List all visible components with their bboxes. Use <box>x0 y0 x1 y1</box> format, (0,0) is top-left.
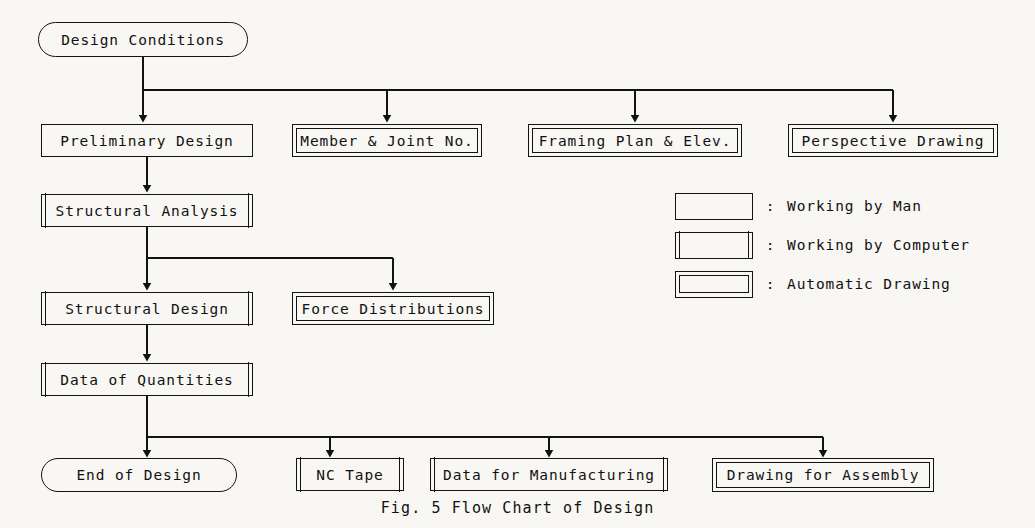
legend-swatch-working-by-man <box>675 193 753 220</box>
node-structural-analysis[interactable]: Structural Analysis <box>41 194 253 227</box>
legend-label-automatic-drawing: Automatic Drawing <box>787 276 951 292</box>
legend-swatch-working-by-computer <box>675 232 753 259</box>
legend-label-working-by-computer: Working by Computer <box>787 237 970 253</box>
node-label: Data for Manufacturing <box>437 467 661 483</box>
node-label: Preliminary Design <box>54 133 239 149</box>
node-label: Member & Joint No. <box>294 133 479 149</box>
legend: : Working by Man : Working by Computer :… <box>675 191 1025 299</box>
legend-colon: : <box>753 198 787 214</box>
node-perspective-drawing[interactable]: Perspective Drawing <box>788 124 998 157</box>
flowchart-figure: Design Conditions Preliminary Design Mem… <box>0 0 1035 528</box>
legend-row: : Automatic Drawing <box>675 269 951 299</box>
figure-caption: Fig. 5 Flow Chart of Design <box>0 499 1035 517</box>
legend-label-working-by-man: Working by Man <box>787 198 922 214</box>
node-design-conditions[interactable]: Design Conditions <box>38 22 248 57</box>
node-label: Drawing for Assembly <box>721 467 926 483</box>
node-drawing-for-assembly[interactable]: Drawing for Assembly <box>712 458 934 492</box>
node-label: NC Tape <box>310 467 389 483</box>
node-data-for-manufacturing[interactable]: Data for Manufacturing <box>430 458 668 491</box>
node-label: Data of Quantities <box>54 372 239 388</box>
node-label: End of Design <box>70 467 207 483</box>
node-preliminary-design[interactable]: Preliminary Design <box>41 124 253 157</box>
node-framing-plan-elev[interactable]: Framing Plan & Elev. <box>528 124 742 157</box>
node-label: Force Distributions <box>296 301 491 317</box>
legend-colon: : <box>753 237 787 253</box>
legend-row: : Working by Man <box>675 191 922 221</box>
node-label: Structural Analysis <box>50 203 245 219</box>
node-structural-design[interactable]: Structural Design <box>41 292 253 325</box>
legend-swatch-automatic-drawing <box>675 271 753 298</box>
node-member-joint-no[interactable]: Member & Joint No. <box>292 124 482 157</box>
legend-row: : Working by Computer <box>675 230 970 260</box>
node-end-of-design[interactable]: End of Design <box>41 458 237 492</box>
node-label: Framing Plan & Elev. <box>533 133 738 149</box>
node-data-of-quantities[interactable]: Data of Quantities <box>41 363 253 396</box>
legend-colon: : <box>753 276 787 292</box>
node-label: Perspective Drawing <box>796 133 991 149</box>
node-label: Design Conditions <box>55 32 231 48</box>
node-force-distributions[interactable]: Force Distributions <box>292 292 494 325</box>
node-nc-tape[interactable]: NC Tape <box>296 458 404 491</box>
node-label: Structural Design <box>59 301 235 317</box>
